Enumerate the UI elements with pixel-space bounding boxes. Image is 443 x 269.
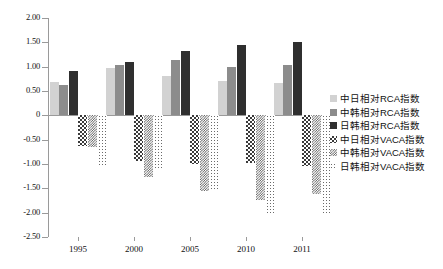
bar-group	[106, 18, 163, 237]
bar-2011-series-3	[302, 115, 311, 166]
x-tick-label-2000: 2000	[104, 244, 164, 254]
bar-1995-series-3	[78, 115, 87, 145]
legend-label: 日韩相对RCA指数	[340, 120, 420, 131]
bar-group	[162, 18, 219, 237]
x-tick-label-2005: 2005	[160, 244, 220, 254]
y-tick-label: -0.50	[23, 134, 40, 144]
bar-group	[218, 18, 275, 237]
bar-2010-series-3	[246, 115, 255, 162]
legend-label: 日韩相对VACA指数	[340, 161, 425, 172]
bar-2010-series-4	[256, 115, 265, 200]
bar-2005-series-2	[181, 51, 190, 115]
bar-2000-series-1	[115, 65, 124, 115]
legend-item: 中韩相对RCA指数	[330, 106, 442, 119]
x-tick-label-1995: 1995	[48, 244, 108, 254]
legend-label: 中韩相对RCA指数	[340, 107, 420, 118]
legend-label: 中韩相对VACA指数	[340, 147, 425, 158]
chart-container: 2.001.501.000.500-0.50-1.00-1.50-2.00-2.…	[0, 0, 443, 269]
y-tick-label: -2.50	[23, 231, 40, 241]
y-tick-label: 1.00	[26, 61, 40, 71]
bar-2005-series-1	[171, 60, 180, 115]
y-tick-label: -2.00	[23, 207, 40, 217]
x-tick-mark	[134, 237, 135, 241]
legend-swatch-icon	[330, 109, 337, 116]
bar-group	[50, 18, 107, 237]
x-tick-mark	[302, 237, 303, 241]
bar-group	[274, 18, 331, 237]
bar-2000-series-4	[144, 115, 153, 177]
legend-label: 中日相对VACA指数	[340, 134, 425, 145]
bar-1995-series-0	[50, 82, 59, 115]
bar-1995-series-2	[69, 71, 78, 116]
bar-2000-series-3	[134, 115, 143, 160]
y-tick-label: 0.50	[26, 85, 40, 95]
bar-1995-series-1	[59, 85, 68, 116]
legend-item: 中日相对RCA指数	[330, 92, 442, 105]
x-tick-mark	[78, 237, 79, 241]
bar-2011-series-0	[274, 83, 283, 115]
chart-legend: 中日相对RCA指数中韩相对RCA指数日韩相对RCA指数中日相对VACA指数中韩相…	[330, 92, 442, 173]
legend-item: 中韩相对VACA指数	[330, 146, 442, 159]
legend-swatch-icon	[330, 95, 337, 102]
y-tick-label: -1.50	[23, 182, 40, 192]
bar-2005-series-3	[190, 115, 199, 164]
y-tick-label: 1.50	[26, 36, 40, 46]
bar-2011-series-2	[293, 42, 302, 115]
x-tick-label-2011: 2011	[272, 244, 332, 254]
legend-label: 中日相对RCA指数	[340, 93, 420, 104]
bar-2011-series-1	[283, 65, 292, 115]
legend-swatch-icon	[330, 149, 337, 156]
legend-item: 中日相对VACA指数	[330, 133, 442, 146]
x-tick-label-2010: 2010	[216, 244, 276, 254]
bar-2011-series-4	[312, 115, 321, 194]
bar-2010-series-2	[237, 45, 246, 116]
legend-item: 日韩相对RCA指数	[330, 119, 442, 132]
bar-2000-series-2	[125, 62, 134, 116]
bar-1995-series-4	[88, 115, 97, 147]
bar-2010-series-0	[218, 81, 227, 115]
plot-area	[48, 18, 328, 237]
y-tick-label: 2.00	[26, 12, 40, 22]
legend-swatch-icon	[330, 122, 337, 129]
x-tick-mark	[190, 237, 191, 241]
y-tick-label: -1.00	[23, 158, 40, 168]
x-tick-mark	[246, 237, 247, 241]
bar-2010-series-1	[227, 67, 236, 116]
bar-2005-series-0	[162, 76, 171, 115]
legend-swatch-icon	[330, 136, 337, 143]
bar-2005-series-4	[200, 115, 209, 190]
bar-2000-series-0	[106, 68, 115, 116]
legend-swatch-icon	[330, 163, 337, 170]
legend-item: 日韩相对VACA指数	[330, 160, 442, 173]
y-tick-label: 0	[36, 109, 40, 119]
y-tick-mark	[42, 237, 48, 238]
